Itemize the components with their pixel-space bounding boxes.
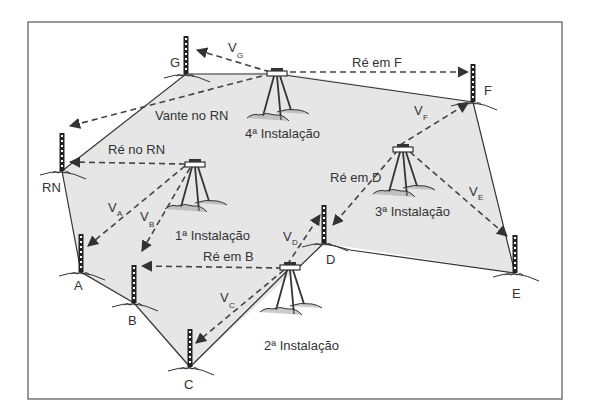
label-E: E	[512, 286, 521, 301]
svg-text:B: B	[149, 220, 154, 229]
svg-text:V: V	[469, 184, 478, 199]
svg-text:F: F	[423, 113, 428, 122]
label-vante-rn: Vante no RN	[155, 108, 228, 123]
label-re-f: Ré em F	[352, 55, 402, 70]
svg-text:V: V	[140, 209, 149, 224]
label-3a-instalacao: 3ª Instalação	[375, 204, 450, 219]
label-C: C	[184, 377, 193, 392]
label-F: F	[484, 83, 492, 98]
svg-text:V: V	[414, 103, 423, 118]
svg-text:A: A	[117, 209, 123, 218]
label-RN: RN	[42, 180, 61, 195]
label-re-d: Ré em D	[330, 170, 381, 185]
svg-text:G: G	[237, 51, 243, 60]
label-re-rn: Ré no RN	[108, 142, 165, 157]
label-G: G	[170, 55, 180, 70]
svg-text:V: V	[228, 40, 237, 55]
label-A: A	[74, 278, 83, 293]
svg-text:V: V	[220, 290, 229, 305]
label-1a-instalacao: 1ª Instalação	[175, 228, 250, 243]
leveling-diagram: G RN A B C D E F 1ª Instalação 2ª Instal…	[0, 0, 591, 420]
svg-text:D: D	[292, 238, 298, 247]
label-2a-instalacao: 2ª Instalação	[264, 338, 339, 353]
svg-text:E: E	[478, 193, 483, 202]
label-B: B	[128, 313, 137, 328]
label-re-b: Ré em B	[203, 249, 254, 264]
label-4a-instalacao: 4ª Instalação	[245, 126, 320, 141]
svg-text:V: V	[108, 200, 117, 215]
label-D: D	[326, 252, 335, 267]
svg-text:V: V	[283, 229, 292, 244]
svg-text:C: C	[229, 301, 235, 310]
